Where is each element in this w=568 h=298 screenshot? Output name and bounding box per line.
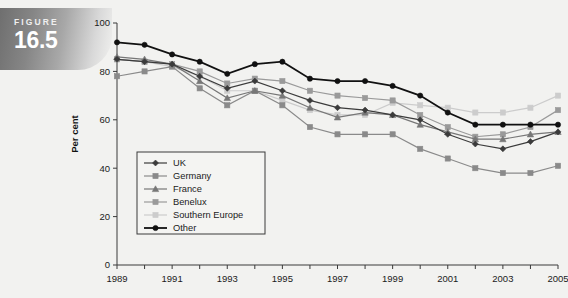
data-point-marker	[153, 199, 158, 204]
data-point-marker	[418, 103, 423, 108]
data-point-marker	[500, 170, 505, 175]
data-point-marker	[473, 122, 478, 127]
chart-legend: UKGermanyFranceBeneluxSouthern EuropeOth…	[137, 152, 265, 234]
x-tick-label: 1999	[382, 273, 403, 284]
data-point-marker	[418, 93, 423, 98]
data-point-marker	[362, 95, 367, 100]
x-tick-label: 2001	[437, 273, 458, 284]
data-point-marker	[528, 170, 533, 175]
y-axis-title: Per cent	[69, 114, 80, 152]
y-tick-label: 20	[99, 211, 110, 222]
data-point-marker	[418, 146, 423, 151]
data-point-marker	[280, 59, 285, 64]
legend-label-germany: Germany	[173, 171, 212, 181]
legend-label-southern-europe: Southern Europe	[173, 210, 243, 220]
data-point-marker	[555, 163, 560, 168]
data-point-marker	[170, 52, 175, 57]
x-tick-label: 1989	[106, 273, 127, 284]
data-point-marker	[528, 105, 533, 110]
x-tick-label: 2005	[547, 273, 568, 284]
data-point-marker	[153, 173, 158, 178]
chart-canvas: 0204060801001989199119931995199719992001…	[0, 0, 568, 298]
x-tick-label: 2003	[492, 273, 513, 284]
data-point-marker	[527, 139, 533, 145]
data-point-marker	[473, 166, 478, 171]
data-point-marker	[335, 93, 340, 98]
data-point-marker	[225, 103, 230, 108]
data-point-marker	[555, 122, 560, 127]
data-point-marker	[500, 122, 505, 127]
data-point-marker	[307, 124, 312, 129]
data-point-marker	[307, 88, 312, 93]
data-point-marker	[445, 156, 450, 161]
x-tick-label: 1995	[272, 273, 293, 284]
data-point-marker	[555, 108, 560, 113]
data-point-marker	[473, 110, 478, 115]
data-point-marker	[197, 86, 202, 91]
data-point-marker	[280, 78, 285, 83]
x-tick-label: 1997	[327, 273, 348, 284]
data-point-marker	[445, 105, 450, 110]
legend-label-france: France	[173, 184, 202, 194]
data-point-marker	[390, 132, 395, 137]
series-uk	[114, 56, 561, 152]
data-point-marker	[279, 88, 285, 94]
x-tick-label: 1993	[217, 273, 238, 284]
x-tick-label: 1991	[162, 273, 183, 284]
data-point-marker	[142, 42, 147, 47]
data-point-marker	[307, 76, 312, 81]
data-point-marker	[307, 97, 313, 103]
data-point-marker	[280, 98, 285, 103]
data-point-marker	[197, 59, 202, 64]
legend-label-other: Other	[173, 223, 196, 233]
data-point-marker	[252, 62, 257, 67]
data-point-marker	[500, 110, 505, 115]
y-tick-label: 0	[105, 259, 110, 270]
data-point-marker	[445, 110, 450, 115]
data-point-marker	[390, 98, 395, 103]
y-tick-label: 60	[99, 114, 110, 125]
y-tick-label: 40	[99, 163, 110, 174]
y-tick-label: 100	[94, 17, 110, 28]
line-chart: 0204060801001989199119931995199719992001…	[0, 0, 568, 298]
data-point-marker	[555, 93, 560, 98]
data-point-marker	[335, 78, 340, 83]
legend-label-benelux: Benelux	[173, 197, 207, 207]
data-point-marker	[335, 105, 341, 111]
data-point-marker	[362, 132, 367, 137]
data-point-marker	[225, 71, 230, 76]
data-point-marker	[528, 122, 533, 127]
data-point-marker	[500, 146, 506, 152]
data-point-marker	[142, 69, 147, 74]
y-tick-label: 80	[99, 66, 110, 77]
data-point-marker	[335, 132, 340, 137]
data-point-marker	[280, 103, 285, 108]
data-point-marker	[153, 212, 158, 217]
data-point-marker	[390, 83, 395, 88]
data-point-marker	[114, 40, 119, 45]
data-point-marker	[153, 225, 158, 230]
data-point-marker	[114, 74, 119, 79]
legend-label-uk: UK	[173, 158, 187, 168]
data-point-marker	[362, 78, 367, 83]
